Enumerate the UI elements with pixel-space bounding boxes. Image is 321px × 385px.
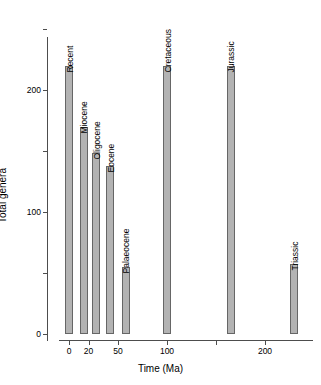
y-tick-label: 0 [36,330,41,339]
y-tick-mark [43,212,47,213]
bar [163,66,171,334]
bar [106,166,114,334]
x-tick-mark [118,341,119,345]
bar-label: Triassic [290,242,299,271]
chart-figure: 0100200 02050100200 RecentMioceneOligoce… [0,0,321,385]
bar-label: Cretaceous [163,29,172,72]
x-tick-mark [89,341,90,345]
plot-area: 0100200 02050100200 RecentMioceneOligoce… [0,0,321,385]
bar-label: Palaeocene [122,228,131,273]
x-tick-label: 100 [160,347,174,356]
bar-label: Jurassic [227,41,236,72]
x-tick-label: 0 [67,347,72,356]
y-tick-label: 200 [27,86,41,95]
x-tick-label: 50 [113,347,122,356]
bar [122,267,130,334]
y-tick-mark [43,90,47,91]
bar-label: Eocene [106,143,115,172]
x-axis-line [59,340,313,341]
bar-label: Recent [65,45,74,72]
y-tick-mark [43,29,47,30]
bar [227,66,235,334]
bar [65,66,73,334]
y-tick-mark [43,273,47,274]
bar-label: Oligocene [92,122,101,160]
bar [290,264,298,334]
y-tick-mark [43,334,47,335]
y-axis-title: Total genera [0,168,8,223]
x-tick-mark [265,341,266,345]
y-tick-label: 100 [27,208,41,217]
bar [80,127,88,334]
y-tick-mark [43,151,47,152]
x-axis-title: Time (Ma) [0,363,321,374]
x-tick-label: 20 [84,347,93,356]
x-tick-mark [216,341,217,345]
x-tick-mark [167,341,168,345]
y-axis-line [47,37,48,341]
x-tick-label: 200 [258,347,272,356]
bar-label: Miocene [80,101,89,133]
x-tick-mark [69,341,70,345]
bar [92,153,100,334]
